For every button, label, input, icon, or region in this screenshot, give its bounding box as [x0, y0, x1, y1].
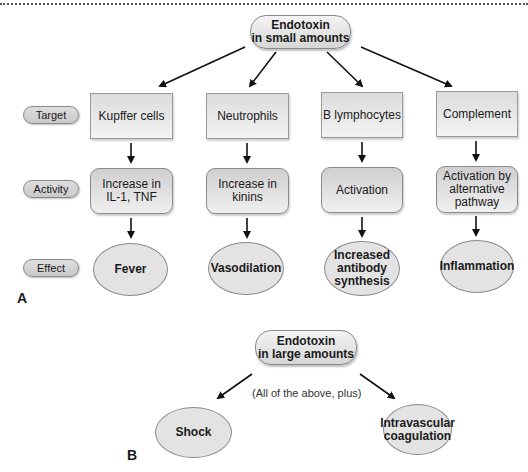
target-text: Complement [443, 108, 511, 121]
target-neutrophils: Neutrophils [206, 93, 289, 139]
target-text: Kupffer cells [99, 110, 165, 123]
activity-activation: Activation [321, 167, 403, 213]
row-label-target-text: Target [36, 109, 67, 122]
top-dotted-border [0, 3, 528, 5]
effect-text: Shock [175, 426, 211, 439]
effect-text: Vasodilation [211, 262, 282, 275]
source-line-2: in small amounts [251, 32, 349, 45]
target-kupffer-cells: Kupffer cells [90, 93, 173, 139]
effect-intravascular-coagulation: Intravascular coagulation [383, 404, 452, 455]
effect-fever: Fever [93, 243, 168, 296]
effect-text: Fever [114, 263, 146, 276]
effect-shock: Shock [155, 407, 232, 458]
activity-line: pathway [455, 196, 500, 209]
row-label-target: Target [23, 106, 79, 124]
activity-il1-tnf: Increase in IL-1, TNF [90, 168, 173, 214]
row-label-effect: Effect [23, 259, 79, 277]
target-text: Neutrophils [217, 110, 278, 123]
activity-line: Activation [336, 184, 388, 197]
source-line-1: Endotoxin [277, 335, 336, 348]
effect-text: Intravascular [380, 417, 455, 430]
effect-inflammation: Inflammation [440, 240, 514, 293]
endotoxin-large-amounts-node: Endotoxin in large amounts [255, 330, 357, 365]
activity-line: kinins [232, 191, 263, 204]
panel-a-label: A [17, 290, 27, 306]
effect-increased-antibody-synthesis: Increased antibody synthesis [324, 241, 400, 296]
effect-text: coagulation [384, 430, 451, 443]
target-text: B lymphocytes [323, 109, 401, 122]
source-line-2: in large amounts [258, 348, 354, 361]
activity-alternative-pathway: Activation by alternative pathway [436, 166, 518, 213]
target-b-lymphocytes: B lymphocytes [321, 92, 403, 138]
panel-b-label: B [127, 447, 137, 463]
effect-text: synthesis [334, 275, 389, 288]
row-label-activity-text: Activity [34, 183, 69, 196]
endotoxin-small-amounts-node: Endotoxin in small amounts [250, 15, 351, 49]
all-of-above-note: (All of the above, plus) [252, 387, 361, 399]
row-label-activity: Activity [23, 180, 79, 198]
activity-line: IL-1, TNF [106, 191, 156, 204]
row-label-effect-text: Effect [37, 262, 65, 275]
connector-arrows [0, 0, 528, 472]
effect-text: Inflammation [440, 260, 515, 273]
target-complement: Complement [436, 91, 518, 137]
effect-vasodilation: Vasodilation [208, 242, 284, 295]
activity-kinins: Increase in kinins [206, 168, 289, 214]
